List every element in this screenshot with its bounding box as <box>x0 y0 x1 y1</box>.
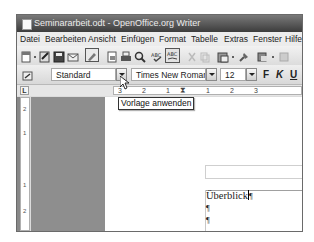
menu-ansicht[interactable]: Ansicht <box>88 32 116 46</box>
font-name-combo[interactable]: Times New Roman <box>131 68 206 81</box>
ruler-tick: 3 <box>254 87 258 95</box>
menu-format[interactable]: Format <box>159 32 186 46</box>
menu-tabelle[interactable]: Tabelle <box>191 32 218 46</box>
title-bar[interactable]: Seminararbeit.odt - OpenOffice.org Write… <box>17 15 302 32</box>
italic-button[interactable]: K <box>276 68 283 81</box>
paragraph-mark: ¶ <box>206 204 210 213</box>
font-size-dropdown-button[interactable] <box>246 68 257 81</box>
export-pdf-icon[interactable] <box>106 49 118 61</box>
new-dropdown-arrow-icon[interactable] <box>33 49 37 61</box>
copy-icon[interactable] <box>199 49 211 61</box>
edit-file-icon[interactable] <box>39 49 51 61</box>
tab-type-selector[interactable]: L <box>20 86 29 95</box>
document-background <box>31 97 105 231</box>
vruler-tick: 1 <box>23 130 26 136</box>
horizontal-ruler[interactable]: 3 2 1 ⧗ 1 2 3 <box>113 86 302 95</box>
vruler-tick: 1 <box>23 182 26 188</box>
standard-toolbar: ABC ABC <box>17 46 302 65</box>
indent-marker-icon[interactable]: ⧗ <box>180 87 186 95</box>
paragraph-heading[interactable]: Überblick¶ <box>206 190 253 203</box>
spellcheck-icon[interactable]: ABC <box>151 49 163 61</box>
vruler-tick: 2 <box>23 106 26 112</box>
page-header-area <box>205 165 302 179</box>
styles-formatting-icon[interactable] <box>22 68 34 80</box>
font-name-value: Times New Roman <box>136 70 206 80</box>
paragraph-mark: ¶ <box>206 216 210 225</box>
menu-einfuegen[interactable]: Einfügen <box>121 32 155 46</box>
svg-text:ABC: ABC <box>167 51 178 57</box>
paragraph-style-value: Standard <box>56 70 91 80</box>
tooltip: Vorlage anwenden <box>118 97 194 110</box>
ruler-tick: 1 <box>206 87 210 95</box>
paste-icon[interactable] <box>217 49 229 61</box>
document-icon <box>22 19 32 30</box>
vruler-tick: 2 <box>23 208 26 214</box>
heading-text: Überblick <box>206 190 248 201</box>
paragraph-mark: ¶ <box>249 192 253 201</box>
save-icon[interactable] <box>53 49 65 61</box>
page-preview-icon[interactable] <box>134 49 146 61</box>
paste-dropdown-arrow-icon[interactable] <box>231 49 235 61</box>
ruler-tick: 2 <box>142 87 146 95</box>
undo-dropdown-arrow-icon[interactable] <box>271 49 275 61</box>
menu-bearbeiten[interactable]: Bearbeiten <box>45 32 86 46</box>
menu-datei[interactable]: Datei <box>20 32 40 46</box>
font-size-value: 12 <box>225 70 234 80</box>
font-name-dropdown-button[interactable] <box>206 68 217 81</box>
print-icon[interactable] <box>120 49 132 61</box>
cut-icon[interactable] <box>186 49 198 61</box>
undo-icon[interactable] <box>257 49 269 61</box>
new-document-icon[interactable] <box>20 49 32 61</box>
menu-fenster[interactable]: Fenster <box>253 32 282 46</box>
ruler-tick: 1 <box>166 87 170 95</box>
menu-extras[interactable]: Extras <box>224 32 248 46</box>
underline-button[interactable]: U <box>290 68 297 81</box>
font-size-combo[interactable]: 12 <box>220 68 246 81</box>
document-page[interactable]: Überblick¶ ¶ ¶ <box>105 97 302 231</box>
formatting-toolbar: Standard Times New Roman 12 F K U <box>17 65 302 85</box>
paragraph-empty[interactable]: ¶ <box>206 214 210 227</box>
autospellcheck-icon[interactable]: ABC <box>165 48 180 63</box>
edit-mode-icon[interactable] <box>85 48 99 62</box>
redo-icon[interactable] <box>279 49 291 61</box>
writer-window: Seminararbeit.odt - OpenOffice.org Write… <box>16 14 303 232</box>
paragraph-style-combo[interactable]: Standard <box>51 68 116 81</box>
vertical-ruler[interactable]: 2 1 1 2 <box>20 97 30 231</box>
menu-bar: Datei Bearbeiten Ansicht Einfügen Format… <box>17 32 302 46</box>
menu-hilfe[interactable]: Hilfe <box>285 32 302 46</box>
window-title: Seminararbeit.odt - OpenOffice.org Write… <box>34 15 200 32</box>
ruler-row: L 3 2 1 ⧗ 1 2 3 <box>17 85 302 96</box>
email-icon[interactable] <box>67 49 79 61</box>
bold-button[interactable]: F <box>263 68 269 81</box>
clone-format-icon[interactable] <box>238 49 250 61</box>
ruler-tick: 2 <box>230 87 234 95</box>
